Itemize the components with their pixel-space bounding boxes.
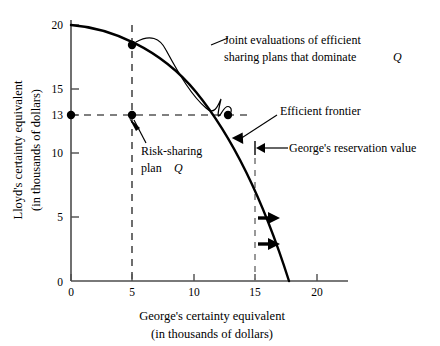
joint-evaluations-annotation: Joint evaluations of efficient sharing p… <box>211 33 402 64</box>
y-tick-label-5: 5 <box>57 211 63 223</box>
y-tick-label-0: 0 <box>57 276 63 288</box>
lloyd-axis-value-point <box>67 111 75 119</box>
efficient-frontier-annotation: Efficient frontier <box>232 104 361 144</box>
y-axis-title-sub: (in thousands of dollars) <box>29 89 43 211</box>
x-axis-title: George's certainty equivalent <box>139 309 285 323</box>
improvement-arrow-upper <box>258 212 280 224</box>
risk-sharing-plan-line2: plan <box>141 161 162 175</box>
joint-evaluations-line1: Joint evaluations of efficient <box>224 33 361 47</box>
y-axis-title: Lloyd's certainty equivalent <box>11 80 25 220</box>
x-axis-ticks: 0 5 10 15 20 <box>68 274 323 298</box>
efficient-frontier-leader-line <box>240 115 277 139</box>
y-tick-label-10: 10 <box>52 147 64 159</box>
risk-sharing-plan-leader-line <box>134 120 146 143</box>
joint-evaluations-q-italic: Q <box>393 50 402 64</box>
x-tick-label-20: 20 <box>311 286 323 298</box>
x-axis-title-sub: (in thousands of dollars) <box>151 327 273 341</box>
x-axis-title-group: George's certainty equivalent (in thousa… <box>139 309 285 341</box>
x-tick-label-5: 5 <box>129 286 135 298</box>
y-axis-title-group: Lloyd's certainty equivalent (in thousan… <box>11 80 43 220</box>
chart-figure: 0 5 10 15 20 20 15 13 10 5 0 <box>0 0 440 346</box>
george-reservation-annotation: George's reservation value <box>255 141 416 155</box>
y-tick-label-20: 20 <box>52 19 64 31</box>
y-tick-label-13: 13 <box>52 109 64 121</box>
x-tick-label-15: 15 <box>249 286 261 298</box>
george-reservation-label: George's reservation value <box>289 141 416 155</box>
x-tick-label-0: 0 <box>68 286 74 298</box>
george-reservation-arrowhead <box>256 143 265 153</box>
improvement-arrow-upper-head <box>268 212 280 224</box>
improvement-arrows-group <box>258 212 280 250</box>
y-tick-label-15: 15 <box>52 83 64 95</box>
y-axis-ticks: 20 15 13 10 5 0 <box>52 19 80 288</box>
risk-sharing-plan-line1: Risk-sharing <box>141 144 202 158</box>
risk-sharing-plan-annotation: Risk-sharing plan Q <box>129 118 202 175</box>
efficient-frontier-label: Efficient frontier <box>280 104 361 118</box>
risk-sharing-plan-q-point <box>128 111 136 119</box>
dominating-plan-point <box>128 41 136 49</box>
x-tick-label-10: 10 <box>188 286 200 298</box>
joint-evaluations-line2: sharing plans that dominate <box>224 50 356 64</box>
chart-svg: 0 5 10 15 20 20 15 13 10 5 0 <box>0 0 440 346</box>
efficient-frontier-arrowhead <box>232 129 248 144</box>
risk-sharing-plan-q-italic: Q <box>174 161 183 175</box>
